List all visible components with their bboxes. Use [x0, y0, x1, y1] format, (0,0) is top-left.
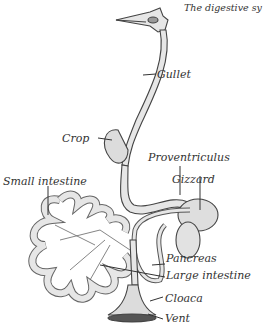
label-small-intestine: Small intestine	[3, 176, 87, 187]
label-pancreas: Pancreas	[166, 253, 217, 264]
label-cloaca: Cloaca	[165, 293, 203, 304]
large-intestine-tube	[130, 240, 138, 285]
gullet-tube	[122, 30, 167, 166]
label-gullet: Gullet	[157, 69, 191, 80]
figure-title: The digestive sy	[184, 2, 262, 13]
label-vent: Vent	[165, 313, 190, 324]
label-gizzard: Gizzard	[172, 174, 215, 185]
crop-shape	[104, 130, 128, 163]
label-proventriculus: Proventriculus	[148, 152, 230, 163]
label-large-intestine: Large intestine	[166, 270, 251, 281]
vent-shape	[108, 314, 156, 322]
label-crop: Crop	[62, 133, 89, 144]
